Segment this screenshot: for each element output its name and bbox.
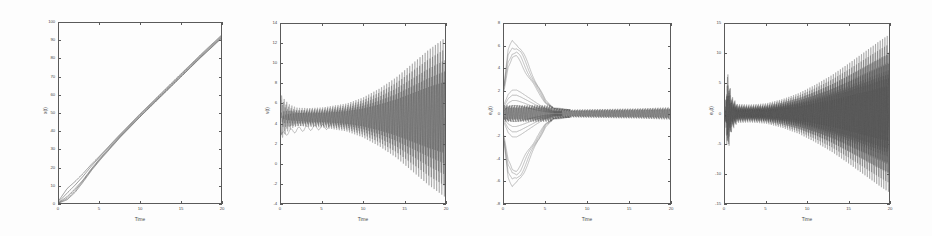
x-tick-mark	[222, 22, 223, 25]
x-tick-mark	[587, 201, 588, 204]
y-tick-label: 14	[264, 21, 277, 25]
y-tick-label: 8	[264, 81, 277, 85]
y-tick-label: 90	[42, 38, 55, 42]
x-tick-label: 5	[544, 207, 546, 211]
data-curve	[59, 37, 221, 202]
y-tick-mark	[724, 53, 727, 54]
y-tick-label: -6	[487, 179, 500, 183]
y-tick-mark	[724, 174, 727, 175]
y-tick-mark	[58, 40, 61, 41]
y-tick-mark	[219, 95, 222, 96]
y-tick-label: 0	[487, 111, 500, 115]
y-tick-label: -4	[487, 157, 500, 161]
x-tick-label: 15	[627, 207, 632, 211]
y-tick-mark	[443, 124, 446, 125]
figure-four-subplots: x(t) Time 010203040506070809010005101520…	[0, 0, 932, 236]
y-tick-label: -2	[487, 134, 500, 138]
y-tick-mark	[724, 114, 727, 115]
y-tick-mark	[443, 164, 446, 165]
x-tick-label: 20	[669, 207, 674, 211]
y-tick-mark	[887, 204, 890, 205]
y-tick-mark	[219, 204, 222, 205]
y-tick-mark	[503, 46, 506, 47]
y-tick-label: 2	[264, 142, 277, 146]
y-tick-mark	[443, 184, 446, 185]
x-tick-label: 20	[888, 207, 893, 211]
y-tick-mark	[280, 124, 283, 125]
y-tick-label: 100	[42, 20, 55, 24]
x-tick-mark	[446, 23, 447, 26]
data-curves-3	[504, 24, 670, 203]
x-tick-label: 10	[805, 207, 810, 211]
y-tick-mark	[724, 204, 727, 205]
y-tick-mark	[280, 144, 283, 145]
subplot-2: v(t) Time -4-20246810121405101520	[233, 0, 466, 236]
data-curve	[59, 38, 221, 202]
x-tick-mark	[363, 23, 364, 26]
data-curve	[504, 117, 570, 186]
y-tick-mark	[887, 53, 890, 54]
x-tick-mark	[140, 201, 141, 204]
y-tick-label: 4	[487, 66, 500, 70]
axis-label-x-2: Time	[358, 217, 368, 222]
x-tick-mark	[766, 201, 767, 204]
x-tick-mark	[322, 23, 323, 26]
y-tick-label: -8	[487, 202, 500, 206]
x-tick-mark	[446, 201, 447, 204]
data-curve	[504, 117, 570, 172]
data-curve	[281, 124, 330, 135]
x-tick-mark	[405, 201, 406, 204]
y-tick-mark	[58, 58, 61, 59]
y-tick-label: -10	[708, 172, 721, 176]
x-tick-mark	[849, 23, 850, 26]
plot-frame-2	[280, 23, 446, 204]
y-tick-label: -2	[264, 182, 277, 186]
y-tick-mark	[668, 159, 671, 160]
x-tick-mark	[545, 201, 546, 204]
y-tick-label: -15	[708, 202, 721, 206]
y-tick-label: 80	[42, 56, 55, 60]
x-tick-label: 0	[279, 207, 281, 211]
x-tick-mark	[807, 201, 808, 204]
x-tick-mark	[280, 23, 281, 26]
y-tick-label: -5	[708, 142, 721, 146]
y-tick-label: 0	[264, 162, 277, 166]
y-tick-label: 50	[42, 111, 55, 115]
y-tick-mark	[219, 149, 222, 150]
y-tick-mark	[443, 83, 446, 84]
y-tick-label: 60	[42, 93, 55, 97]
y-tick-label: 2	[487, 89, 500, 93]
y-tick-mark	[280, 204, 283, 205]
x-tick-mark	[363, 201, 364, 204]
x-tick-mark	[849, 201, 850, 204]
y-tick-label: 0	[42, 202, 55, 206]
y-tick-mark	[280, 103, 283, 104]
y-tick-mark	[887, 83, 890, 84]
x-tick-label: 0	[502, 207, 504, 211]
plot-frame-3	[503, 23, 671, 204]
x-tick-label: 15	[402, 207, 407, 211]
x-tick-mark	[99, 201, 100, 204]
y-tick-mark	[280, 164, 283, 165]
x-tick-mark	[503, 23, 504, 26]
x-tick-mark	[99, 22, 100, 25]
subplot-4: ev(t) Time -15-10-505101505101520	[699, 0, 932, 236]
x-tick-label: 5	[98, 207, 100, 211]
y-tick-mark	[503, 204, 506, 205]
x-tick-mark	[671, 201, 672, 204]
y-tick-mark	[58, 204, 61, 205]
x-tick-mark	[181, 201, 182, 204]
y-tick-mark	[668, 68, 671, 69]
y-tick-label: 10	[708, 51, 721, 55]
y-tick-label: 30	[42, 147, 55, 151]
data-curve	[504, 117, 570, 175]
x-tick-label: 5	[764, 207, 766, 211]
y-tick-label: 70	[42, 74, 55, 78]
x-tick-mark	[890, 23, 891, 26]
x-tick-label: 0	[723, 207, 725, 211]
plot-area-2	[281, 24, 445, 203]
y-tick-mark	[668, 46, 671, 47]
y-tick-mark	[503, 181, 506, 182]
y-tick-label: 20	[42, 165, 55, 169]
x-tick-mark	[807, 23, 808, 26]
